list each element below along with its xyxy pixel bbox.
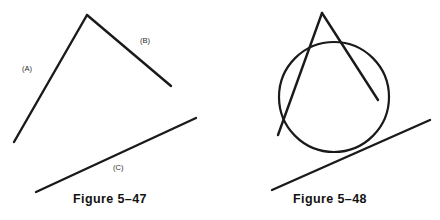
- part-label-c: (C): [113, 163, 123, 172]
- part-label-b: (B): [140, 36, 150, 45]
- figure-5-48-panel: Figure 5–48: [220, 0, 440, 220]
- line-segment-b: [87, 15, 171, 86]
- inscribed-circle: [279, 42, 389, 152]
- figure-plate: (A) (B) (C) Figure 5–47 Figure 5–48: [0, 0, 440, 220]
- figure-5-47-caption: Figure 5–47: [0, 192, 220, 206]
- figure-5-48-drawing: [220, 0, 440, 220]
- figure-5-47-panel: (A) (B) (C) Figure 5–47: [0, 0, 220, 220]
- figure-5-48-caption: Figure 5–48: [220, 192, 440, 206]
- figure-5-47-drawing: [0, 0, 220, 220]
- bottom-tangent-line: [272, 120, 430, 190]
- part-label-a: (A): [22, 64, 32, 73]
- line-segment-a: [14, 15, 87, 142]
- line-segment-c: [36, 118, 196, 192]
